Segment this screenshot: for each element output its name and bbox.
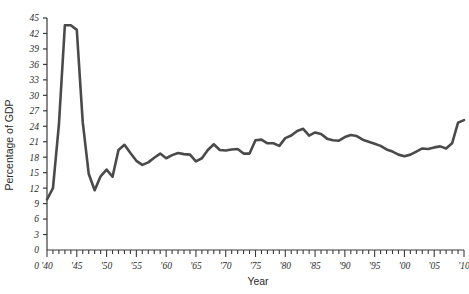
y-tick-label: 45 — [30, 13, 40, 23]
x-tick-label: '60 — [160, 261, 172, 271]
x-tick-label: '00 — [399, 261, 411, 271]
y-tick-label: 9 — [34, 199, 39, 209]
chart-container: 0369121518212427303336394245 '40'45'50'5… — [0, 0, 469, 294]
y-tick-label: 18 — [30, 153, 40, 163]
gdp-percentage-line-chart: 0369121518212427303336394245 '40'45'50'5… — [0, 0, 469, 294]
x-tick-label: '55 — [131, 261, 143, 271]
x-tick-label: '70 — [220, 261, 232, 271]
y-tick-label: 3 — [33, 230, 39, 240]
y-tick-label: 21 — [30, 137, 40, 147]
x-tick-label: '85 — [309, 261, 321, 271]
y-tick-label: 27 — [30, 106, 41, 116]
x-tick-label: '95 — [369, 261, 381, 271]
x-tick-label: '40 — [41, 261, 53, 271]
y-tick-label: 33 — [29, 75, 40, 85]
x-axis: '40'45'50'55'60'65'70'75'80'85'90'95'00'… — [34, 250, 469, 271]
x-axis-origin-label: 0 — [34, 261, 39, 271]
y-tick-label: 12 — [30, 184, 40, 194]
x-axis-title: Year — [247, 275, 269, 287]
y-tick-label: 39 — [29, 44, 40, 54]
x-tick-label: '10 — [458, 261, 469, 271]
x-tick-label: '65 — [190, 261, 202, 271]
x-tick-label: '45 — [71, 261, 83, 271]
y-tick-label: 0 — [34, 245, 39, 255]
y-tick-label: 36 — [29, 60, 40, 70]
x-tick-label: '90 — [339, 261, 351, 271]
x-tick-label: '50 — [101, 261, 113, 271]
y-tick-label: 24 — [30, 122, 40, 132]
data-series-line — [47, 25, 464, 199]
x-tick-label: '05 — [428, 261, 440, 271]
y-tick-label: 30 — [29, 91, 40, 101]
series-line — [47, 25, 464, 199]
y-tick-label: 6 — [34, 214, 39, 224]
y-axis-title: Percentage of GDP — [3, 99, 15, 190]
y-tick-label: 42 — [30, 29, 40, 39]
x-tick-label: '75 — [250, 261, 262, 271]
y-tick-label: 15 — [30, 168, 40, 178]
x-tick-label: '80 — [280, 261, 292, 271]
y-axis: 0369121518212427303336394245 — [29, 13, 48, 255]
